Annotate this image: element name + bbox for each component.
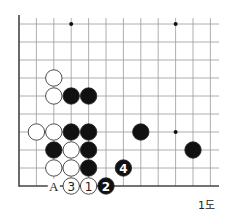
white-stone — [46, 70, 62, 86]
move-number-1: 1 — [85, 180, 93, 194]
star-point — [69, 22, 73, 26]
star-point — [174, 22, 178, 26]
white-stone — [63, 142, 79, 158]
star-point — [174, 130, 178, 134]
white-stone — [28, 124, 44, 140]
move-number-3: 3 — [67, 180, 75, 194]
move-number-4: 4 — [119, 162, 127, 176]
move-number-2: 2 — [102, 180, 110, 194]
black-stone — [133, 124, 149, 140]
diagram-caption: 1도 — [198, 196, 215, 212]
white-stone — [46, 124, 62, 140]
black-stone — [80, 124, 96, 140]
black-stone — [80, 142, 96, 158]
black-stone — [63, 124, 79, 140]
point-marker-a: A — [49, 179, 59, 194]
white-stone — [46, 88, 62, 104]
black-stone — [80, 88, 96, 104]
black-stone — [80, 160, 96, 176]
black-stone — [63, 88, 79, 104]
black-stone — [185, 142, 201, 158]
black-stone — [46, 142, 62, 158]
go-board-diagram: A4312 — [0, 0, 234, 214]
white-stone — [46, 160, 62, 176]
white-stone — [63, 160, 79, 176]
